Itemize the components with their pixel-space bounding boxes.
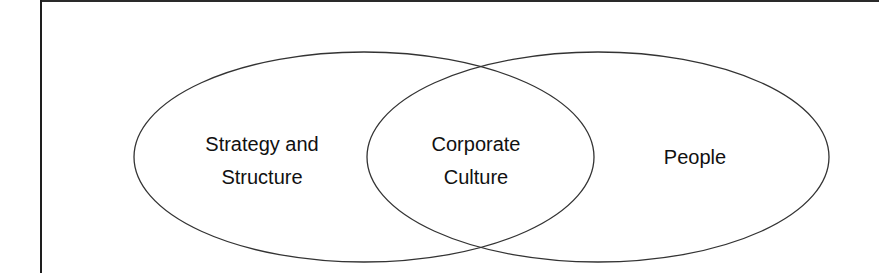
label-strategy-structure-line1: Strategy and (205, 128, 318, 161)
label-strategy-structure: Strategy and Structure (205, 128, 318, 194)
label-corporate-culture-line2: Culture (432, 161, 521, 194)
label-corporate-culture: Corporate Culture (432, 128, 521, 194)
label-strategy-structure-line2: Structure (205, 161, 318, 194)
set-ellipse-strategy-structure (134, 52, 594, 262)
label-corporate-culture-line1: Corporate (432, 128, 521, 161)
label-people-line1: People (664, 141, 726, 174)
label-people: People (664, 141, 726, 174)
